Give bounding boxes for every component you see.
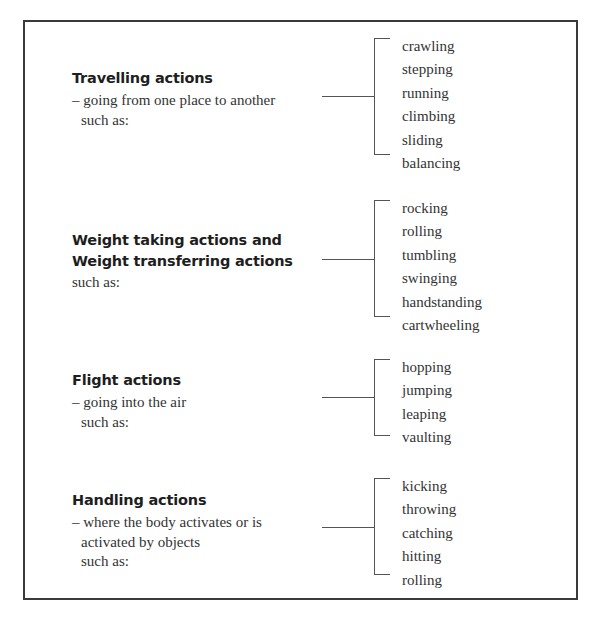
section-description: – where the body activates or is activat… [72,513,262,572]
section-heading: Handling actions [72,491,206,510]
section-heading: Travelling actions [72,69,213,88]
list-item: leaping [402,403,452,426]
list-item: running [402,82,460,105]
description-line: – where the body activates or is [72,513,262,533]
connector-line [322,259,375,260]
list-item: cartwheeling [402,314,482,337]
list-item: throwing [402,498,456,521]
heading-line: Weight transferring actions [72,251,293,272]
section-heading: Flight actions [72,371,181,390]
action-list: crawling stepping running climbing slidi… [402,35,460,175]
action-list: rocking rolling tumbling swinging handst… [402,197,482,337]
list-item: catching [402,522,456,545]
bracket [374,359,390,436]
heading-line: Flight actions [72,371,181,390]
section-description: such as: [72,273,120,293]
heading-line: Travelling actions [72,69,213,88]
list-item: hitting [402,545,456,568]
list-item: swinging [402,267,482,290]
list-item: jumping [402,379,452,402]
section-heading: Weight taking actions and Weight transfe… [72,230,293,272]
description-line: such as: [72,273,120,293]
list-item: rocking [402,197,482,220]
section-description: – going into the air such as: [72,393,186,432]
action-list: hopping jumping leaping vaulting [402,356,452,450]
bracket [374,478,390,575]
connector-line [322,397,375,398]
description-line: – going from one place to another [72,91,275,111]
section-description: – going from one place to another such a… [72,91,275,130]
list-item: kicking [402,475,456,498]
list-item: crawling [402,35,460,58]
list-item: vaulting [402,426,452,449]
list-item: climbing [402,105,460,128]
heading-line: Weight taking actions and [72,230,293,251]
description-line: such as: [72,413,186,433]
description-line: such as: [72,111,275,131]
description-line: such as: [72,552,262,572]
description-line: activated by objects [72,533,262,553]
list-item: sliding [402,129,460,152]
connector-line [322,96,375,97]
connector-line [322,527,375,528]
action-list: kicking throwing catching hitting rollin… [402,475,456,592]
list-item: rolling [402,569,456,592]
list-item: tumbling [402,244,482,267]
description-line: – going into the air [72,393,186,413]
list-item: handstanding [402,291,482,314]
list-item: balancing [402,152,460,175]
bracket [374,200,390,317]
heading-line: Handling actions [72,491,206,510]
list-item: hopping [402,356,452,379]
list-item: rolling [402,220,482,243]
list-item: stepping [402,58,460,81]
bracket [374,38,390,155]
